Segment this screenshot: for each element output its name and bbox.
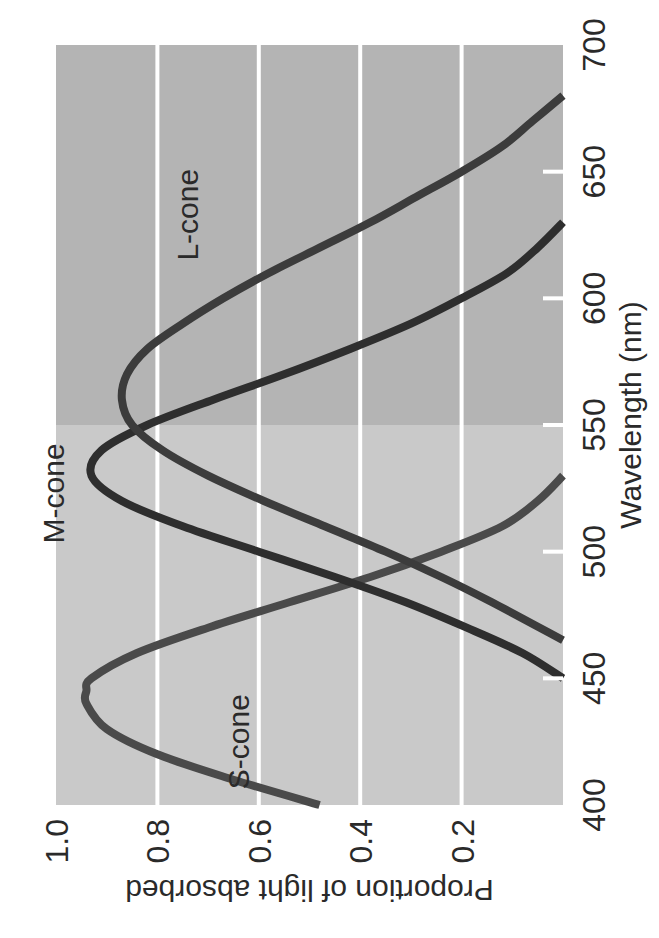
x-tick-label: 550 [576, 398, 612, 451]
x-tick-label: 450 [576, 652, 612, 705]
x-tick-label: 700 [576, 18, 612, 71]
y-axis-title: Proportion of light absorbed [125, 874, 494, 907]
cone-absorption-chart: S-coneM-coneL-cone 400450500550600650700… [0, 0, 659, 938]
y-tick-label: 0.2 [445, 819, 481, 863]
l-cone-label: L-cone [171, 169, 204, 261]
m-cone-label: M-cone [37, 443, 70, 543]
rotated-chart-group: S-coneM-coneL-cone 400450500550600650700… [37, 18, 647, 907]
x-tick-label: 600 [576, 272, 612, 325]
chart-canvas: S-coneM-coneL-cone 400450500550600650700… [0, 0, 659, 938]
plot-background-short-wavelength [56, 425, 563, 805]
x-tick-label: 650 [576, 145, 612, 198]
s-cone-label: S-cone [222, 694, 255, 789]
y-tick-label: 1.0 [39, 819, 75, 863]
x-axis-title: Wavelength (nm) [614, 301, 647, 528]
y-tick-label: 0.6 [242, 819, 278, 863]
y-tick-label: 0.8 [140, 819, 176, 863]
y-axis-ticks: 0.20.40.60.81.0 [39, 819, 481, 863]
x-tick-label: 400 [576, 778, 612, 831]
x-tick-label: 500 [576, 525, 612, 578]
y-tick-label: 0.4 [343, 819, 379, 863]
